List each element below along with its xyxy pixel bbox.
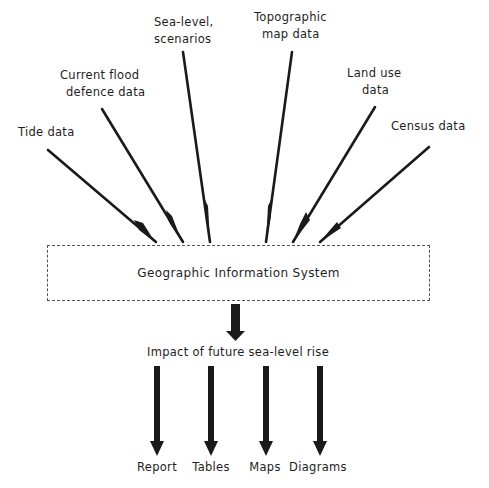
input-label-land-use: Land use data xyxy=(347,65,401,99)
label-line: scenarios xyxy=(154,31,214,48)
gis-box: Geographic Information System xyxy=(47,245,430,301)
label-line: map data xyxy=(254,26,327,43)
label-line: Land use xyxy=(347,65,401,82)
output-label-report: Report xyxy=(137,459,177,476)
input-label-census: Census data xyxy=(391,118,466,135)
label-line: data xyxy=(347,82,401,99)
label-line: defence data xyxy=(60,84,145,101)
main-arrow-shaft xyxy=(231,304,240,332)
label-line: Topographic xyxy=(254,9,327,26)
input-label-flood-defence: Current flood defence data xyxy=(60,67,145,101)
output-label-tables: Tables xyxy=(192,459,230,476)
input-label-topographic: Topographic map data xyxy=(254,9,327,43)
gis-label: Geographic Information System xyxy=(137,266,340,280)
label-line: Current flood xyxy=(60,67,145,84)
main-arrow-head xyxy=(226,331,245,341)
label-line: Tide data xyxy=(18,124,75,141)
output-label-maps: Maps xyxy=(249,459,280,476)
label-line: Sea-level, xyxy=(154,14,214,31)
input-label-sea-level: Sea-level, scenarios xyxy=(154,14,214,48)
impact-label: Impact of future sea-level rise xyxy=(147,344,329,361)
input-label-tide: Tide data xyxy=(18,124,75,141)
output-label-diagrams: Diagrams xyxy=(289,459,347,476)
label-line: Census data xyxy=(391,118,466,135)
arrow-sea-level xyxy=(183,52,210,242)
